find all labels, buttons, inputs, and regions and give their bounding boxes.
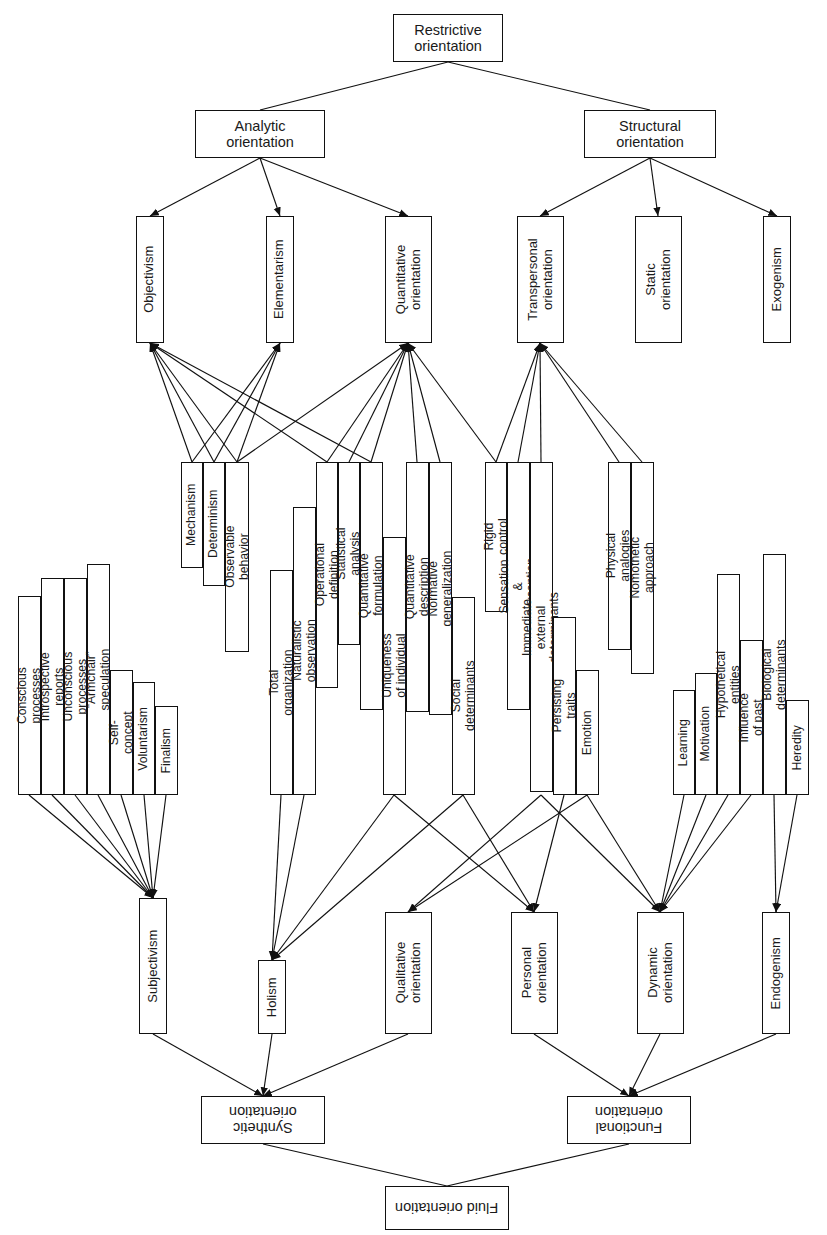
edge xyxy=(263,1144,447,1186)
node-persisting[interactable]: Persisting traits xyxy=(553,617,576,795)
edge xyxy=(408,795,541,912)
edge xyxy=(518,343,540,462)
node-structural[interactable]: Structural orientation xyxy=(584,110,716,158)
edge xyxy=(394,795,534,912)
edge xyxy=(660,795,684,912)
node-biological[interactable]: Biological determinants xyxy=(763,554,786,795)
node-label: Subjectivism xyxy=(146,930,161,1003)
node-functional[interactable]: Functional orientation xyxy=(567,1096,691,1144)
node-label: Exogenism xyxy=(770,247,785,311)
edge xyxy=(260,158,280,216)
node-finalism[interactable]: Finalism xyxy=(155,706,178,795)
node-objectivism[interactable]: Objectivism xyxy=(136,216,164,343)
node-label: Observable behavior xyxy=(223,526,250,588)
node-label: Uniqueness of individual xyxy=(381,634,408,698)
edge xyxy=(52,795,153,898)
edge xyxy=(650,158,777,216)
node-nomothetic[interactable]: Nomothetic approach xyxy=(631,462,654,674)
node-label: Naturalistic observation xyxy=(291,620,318,683)
node-observable[interactable]: Observable behavior xyxy=(225,462,249,652)
node-label: Normative generalization xyxy=(427,551,454,627)
edge xyxy=(272,795,463,960)
node-transpersonal[interactable]: Transpersonal orientation xyxy=(517,216,564,343)
edge xyxy=(327,343,408,462)
node-label: Analytic orientation xyxy=(226,118,294,150)
edge xyxy=(660,795,706,912)
edge xyxy=(541,795,660,912)
edge xyxy=(29,795,153,898)
node-holism[interactable]: Holism xyxy=(258,960,286,1034)
edge xyxy=(237,343,280,462)
node-label: Motivation xyxy=(699,706,713,762)
edge xyxy=(650,158,658,216)
node-label: Fluid orientation xyxy=(395,1200,498,1216)
node-label: Heredity xyxy=(791,725,805,770)
node-total_org[interactable]: Total organization xyxy=(270,570,293,795)
node-emotion[interactable]: Emotion xyxy=(576,670,599,795)
edge xyxy=(150,343,371,462)
node-exogenism[interactable]: Exogenism xyxy=(763,216,791,343)
node-label: Quantitative formulation xyxy=(358,553,385,618)
node-personal[interactable]: Personal orientation xyxy=(511,912,558,1034)
node-label: Persisting traits xyxy=(551,679,578,733)
node-label: Restrictive orientation xyxy=(414,22,482,54)
edge xyxy=(629,1034,660,1096)
node-voluntarism[interactable]: Voluntarism xyxy=(133,682,155,795)
node-label: Emotion xyxy=(581,710,595,755)
node-self_concept[interactable]: Self-concept xyxy=(110,670,133,795)
node-fluid[interactable]: Fluid orientation xyxy=(385,1186,509,1230)
node-analytic[interactable]: Analytic orientation xyxy=(195,110,325,158)
node-armchair[interactable]: “Armchair” speculation xyxy=(87,564,110,795)
node-immediate[interactable]: Immediate external determinants xyxy=(530,462,553,792)
edge xyxy=(534,1034,629,1096)
node-label: Finalism xyxy=(160,728,174,773)
edge xyxy=(540,343,619,462)
node-qualitative[interactable]: Qualitative orientation xyxy=(385,912,432,1034)
edge xyxy=(214,343,280,462)
edge xyxy=(448,62,650,110)
node-subjectivism[interactable]: Subjectivism xyxy=(139,898,167,1034)
node-sensation[interactable]: Sensation & perception xyxy=(507,462,530,710)
edge xyxy=(192,343,280,462)
node-dynamic[interactable]: Dynamic orientation xyxy=(637,912,684,1034)
node-label: Personal orientation xyxy=(520,943,549,1004)
node-static[interactable]: Static orientation xyxy=(635,216,682,343)
node-synthetic[interactable]: Synthetic orientation xyxy=(201,1096,325,1144)
node-label: Voluntarism xyxy=(137,707,151,771)
node-label: Synthetic orientation xyxy=(229,1104,297,1136)
edge xyxy=(260,62,448,110)
edge xyxy=(660,795,728,912)
node-label: Social determinants xyxy=(450,661,477,731)
node-hypothetical[interactable]: Hypothetical entities xyxy=(717,574,740,795)
node-label: Transpersonal orientation xyxy=(526,238,555,321)
node-social_det[interactable]: Social determinants xyxy=(452,597,475,795)
edge xyxy=(540,158,650,216)
edge xyxy=(540,343,541,462)
edge xyxy=(776,795,797,912)
node-label: Learning xyxy=(677,719,691,766)
node-label: Functional orientation xyxy=(595,1104,663,1136)
edge xyxy=(75,795,153,898)
node-endogenism[interactable]: Endogenism xyxy=(762,912,790,1034)
edge xyxy=(150,343,327,462)
node-label: Rigid control xyxy=(482,519,509,556)
node-label: Quantitative orientation xyxy=(394,245,423,314)
edge xyxy=(660,795,751,912)
node-normative[interactable]: Normative generalization xyxy=(429,462,452,715)
node-label: Qualitative orientation xyxy=(394,942,423,1003)
node-label: Structural orientation xyxy=(616,118,684,150)
edge xyxy=(774,795,776,912)
node-restrictive[interactable]: Restrictive orientation xyxy=(393,14,503,62)
edge xyxy=(150,158,260,216)
node-elementarism[interactable]: Elementarism xyxy=(266,216,294,343)
node-label: Endogenism xyxy=(769,937,784,1009)
edge xyxy=(447,1144,629,1186)
node-label: Static orientation xyxy=(644,249,673,310)
node-learning[interactable]: Learning xyxy=(673,690,695,795)
node-heredity[interactable]: Heredity xyxy=(786,700,809,795)
node-label: Objectivism xyxy=(143,246,158,313)
edge xyxy=(260,158,408,216)
node-quantitative[interactable]: Quantitative orientation xyxy=(385,216,432,343)
node-mechanism[interactable]: Mechanism xyxy=(181,462,203,568)
edge xyxy=(587,795,660,912)
